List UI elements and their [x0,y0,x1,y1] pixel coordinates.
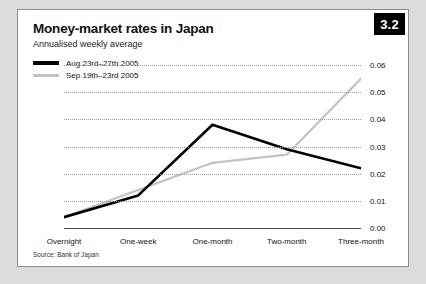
chart-card: 3.2 Money-market rates in Japan Annualis… [17,9,409,267]
x-axis-tick-label: One-month [192,237,232,246]
x-axis-tick-label: Two-month [267,237,307,246]
y-axis-tick-label: 0.00 [370,224,386,233]
x-axis-tick-label: One-week [120,237,156,246]
gridline [64,65,361,66]
chart-subtitle: Annualised weekly average [33,39,143,49]
gridline [64,119,361,120]
gridline [64,92,361,93]
source-note: Source: Bank of Japan [33,251,99,258]
gridline [64,147,361,148]
legend-swatch-icon [33,61,59,65]
gridline [64,174,361,175]
x-axis-line [64,228,361,229]
plot-area [64,65,361,228]
x-axis-tick-label: Three-month [338,237,384,246]
series-line [64,79,361,218]
legend-swatch-icon [33,74,59,77]
y-axis-tick-label: 0.04 [370,115,386,124]
figure-number-label: 3.2 [380,17,399,32]
y-axis-tick-label: 0.02 [370,169,386,178]
figure-number-badge: 3.2 [374,13,405,35]
chart-title: Money-market rates in Japan [33,21,214,36]
y-axis-tick-label: 0.06 [370,61,386,70]
y-axis-tick-label: 0.01 [370,196,386,205]
series-line [64,125,361,217]
gridline [64,201,361,202]
y-axis-tick-label: 0.05 [370,88,386,97]
x-axis-tick-label: Overnight [47,237,82,246]
y-axis-tick-label: 0.03 [370,142,386,151]
